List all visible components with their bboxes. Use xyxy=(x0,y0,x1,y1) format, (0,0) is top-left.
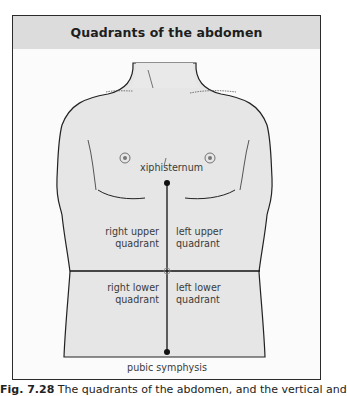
label-right-lower-2: quadrant xyxy=(90,294,159,306)
label-pubic-symphysis: pubic symphysis xyxy=(117,362,217,374)
caption-number: Fig. 7.28 xyxy=(0,383,54,396)
figure-caption: Fig. 7.28 The quadrants of the abdomen, … xyxy=(0,383,347,396)
pubic-symphysis-dot xyxy=(164,349,170,355)
label-left-upper-1: left upper xyxy=(176,226,246,238)
label-left-lower-1: left lower xyxy=(176,282,246,294)
xiphisternum-dot xyxy=(164,180,170,186)
torso-outline xyxy=(57,63,272,357)
label-xiphisternum: xiphisternum xyxy=(140,162,195,174)
label-right-upper-2: quadrant xyxy=(90,238,159,250)
caption-text: The quadrants of the abdomen, and the ve… xyxy=(58,383,347,396)
label-right-lower-1: right lower xyxy=(90,282,159,294)
label-left-upper-2: quadrant xyxy=(176,238,246,250)
label-left-lower-2: quadrant xyxy=(176,294,246,306)
label-right-upper-1: right upper xyxy=(90,226,159,238)
